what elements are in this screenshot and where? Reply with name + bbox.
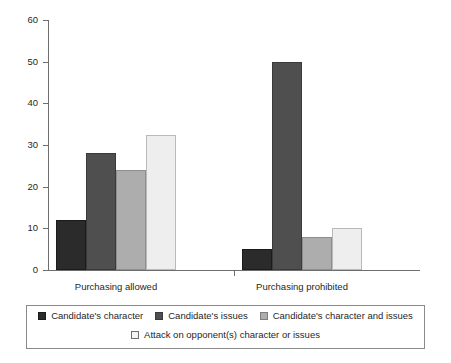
bar bbox=[242, 249, 272, 270]
legend-swatch-icon bbox=[155, 312, 163, 320]
legend-label: Attack on opponent(s) character or issue… bbox=[144, 329, 320, 340]
legend-label: Candidate's character bbox=[51, 310, 143, 321]
y-axis-tick-label: 50 bbox=[0, 57, 38, 67]
legend-item: Attack on opponent(s) character or issue… bbox=[131, 329, 320, 340]
x-axis-category-label: Purchasing allowed bbox=[75, 281, 157, 292]
legend-row-1: Candidate's characterCandidate's issuesC… bbox=[27, 310, 424, 321]
legend-item: Candidate's character bbox=[38, 310, 143, 321]
x-axis-tick bbox=[234, 271, 235, 276]
y-axis-tick-label: 20 bbox=[0, 182, 38, 192]
legend-swatch-icon bbox=[260, 312, 268, 320]
y-axis-tick-label: 0 bbox=[0, 265, 38, 275]
bar bbox=[272, 62, 302, 270]
bar bbox=[86, 153, 116, 270]
bar bbox=[116, 170, 146, 270]
bar bbox=[146, 135, 176, 270]
bar bbox=[302, 237, 332, 270]
x-axis-category-label: Purchasing prohibited bbox=[256, 281, 348, 292]
bars-layer bbox=[48, 20, 420, 270]
legend-item: Candidate's character and issues bbox=[260, 310, 413, 321]
legend-label: Candidate's issues bbox=[168, 310, 247, 321]
legend: Candidate's characterCandidate's issuesC… bbox=[26, 305, 425, 349]
bar bbox=[332, 228, 362, 270]
y-axis-tick-label: 40 bbox=[0, 98, 38, 108]
y-axis-tick-label: 60 bbox=[0, 15, 38, 25]
y-axis-tick bbox=[43, 270, 48, 271]
legend-swatch-icon bbox=[131, 331, 139, 339]
bar-chart: 0102030405060 Purchasing allowedPurchasi… bbox=[0, 0, 451, 363]
bar bbox=[56, 220, 86, 270]
y-axis-tick-label: 10 bbox=[0, 223, 38, 233]
legend-item: Candidate's issues bbox=[155, 310, 247, 321]
y-axis-tick-label: 30 bbox=[0, 140, 38, 150]
legend-row-2: Attack on opponent(s) character or issue… bbox=[27, 329, 424, 340]
legend-label: Candidate's character and issues bbox=[273, 310, 413, 321]
legend-swatch-icon bbox=[38, 312, 46, 320]
